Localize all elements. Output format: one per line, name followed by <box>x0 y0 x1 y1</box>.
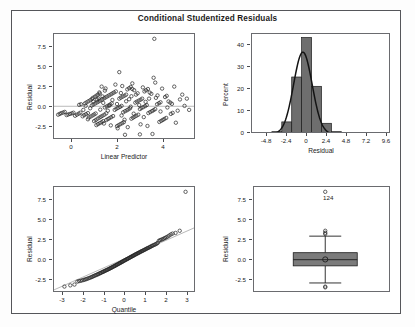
qq-x-tickmark-4 <box>145 292 146 295</box>
qq-x-tickmark-6 <box>187 292 188 295</box>
scatter-x-tick-2: 4 <box>153 143 173 150</box>
qq-y-tickmark-3 <box>49 259 52 260</box>
scatter-x-tick-1: 2 <box>107 143 127 150</box>
qq-y-tickmark-2 <box>49 239 52 240</box>
qq-plot-area <box>53 186 195 292</box>
scatter-x-tickmark-2 <box>163 139 164 142</box>
box-y-tickmark-4 <box>249 279 252 280</box>
page-title: Conditional Studentized Residuals <box>0 14 415 23</box>
scatter-y-tickmark-3 <box>49 106 52 107</box>
box-y-tick-2: 2.5 <box>226 236 246 243</box>
scatter-y-tickmark-0 <box>49 46 52 47</box>
histogram-x-tick-1: -2.4 <box>276 137 296 144</box>
qq-x-axis-title: Quantile <box>74 306 174 313</box>
box-y-tick-4: -2.5 <box>226 276 246 283</box>
diagnostic-panel-figure: Conditional Studentized Residuals Residu… <box>0 0 415 327</box>
histogram-y-tick-1: 30 <box>228 63 244 70</box>
histogram-plot-area <box>251 33 390 133</box>
histogram-y-tick-4: 0 <box>228 129 244 136</box>
scatter-canvas <box>54 34 195 139</box>
qq-y-tickmark-0 <box>49 199 52 200</box>
scatter-y-tick-4: -2.5 <box>26 123 46 130</box>
scatter-y-tick-0: 7.5 <box>26 43 46 50</box>
histogram-x-tick-4: 4.8 <box>336 137 356 144</box>
scatter-x-tickmark-0 <box>71 139 72 142</box>
qq-canvas <box>54 187 195 292</box>
scatter-x-tick-0: 0 <box>61 143 81 150</box>
qq-x-tickmark-2 <box>104 292 105 295</box>
scatter-plot-area <box>53 33 195 139</box>
qq-y-tickmark-1 <box>49 219 52 220</box>
box-y-tickmark-3 <box>249 259 252 260</box>
histogram-y-tickmark-1 <box>247 66 250 67</box>
qq-y-tick-0: 7.5 <box>26 196 46 203</box>
histogram-x-tick-2: 0 <box>296 137 316 144</box>
histogram-y-tickmark-3 <box>247 110 250 111</box>
box-plot-area: 124 <box>253 186 390 292</box>
box-outlier-label: 124 <box>323 194 333 201</box>
histogram-x-tickmark-1 <box>286 133 287 136</box>
box-y-tickmark-0 <box>249 199 252 200</box>
histogram-y-tick-2: 20 <box>228 85 244 92</box>
histogram-canvas <box>252 34 390 133</box>
scatter-y-tick-1: 5.0 <box>26 63 46 70</box>
histogram-x-tickmark-3 <box>326 133 327 136</box>
box-y-tick-3: 0.0 <box>226 256 246 263</box>
qq-y-tick-2: 2.5 <box>26 236 46 243</box>
scatter-y-tickmark-2 <box>49 86 52 87</box>
histogram-x-tick-6: 9.6 <box>376 137 396 144</box>
qq-x-tick-5: 2 <box>156 296 176 303</box>
qq-y-tick-1: 5.0 <box>26 216 46 223</box>
histogram-y-tick-0: 40 <box>228 41 244 48</box>
box-y-tick-0: 7.5 <box>226 196 246 203</box>
qq-x-tick-3: 0 <box>114 296 134 303</box>
histogram-x-tickmark-5 <box>366 133 367 136</box>
box-canvas <box>254 187 390 292</box>
qq-x-tickmark-0 <box>62 292 63 295</box>
histogram-x-tickmark-6 <box>386 133 387 136</box>
scatter-y-tick-2: 2.5 <box>26 83 46 90</box>
box-y-tickmark-2 <box>249 239 252 240</box>
scatter-x-axis-title: Linear Predictor <box>74 153 174 160</box>
qq-x-tickmark-1 <box>83 292 84 295</box>
histogram-y-tick-3: 10 <box>228 107 244 114</box>
box-y-tickmark-1 <box>249 219 252 220</box>
qq-y-tick-3: 0.0 <box>26 256 46 263</box>
scatter-y-tickmark-4 <box>49 126 52 127</box>
qq-x-tickmark-3 <box>124 292 125 295</box>
histogram-x-tickmark-0 <box>266 133 267 136</box>
histogram-y-tickmark-0 <box>247 44 250 45</box>
qq-y-tickmark-4 <box>49 279 52 280</box>
qq-y-tick-4: -2.5 <box>26 276 46 283</box>
histogram-x-tickmark-4 <box>346 133 347 136</box>
scatter-y-tickmark-1 <box>49 66 52 67</box>
qq-x-tick-2: -1 <box>94 296 114 303</box>
qq-x-tickmark-5 <box>166 292 167 295</box>
histogram-x-axis-title: Residual <box>271 147 371 154</box>
qq-x-tick-0: -3 <box>52 296 72 303</box>
qq-x-tick-4: 1 <box>135 296 155 303</box>
histogram-x-tick-3: 2.4 <box>316 137 336 144</box>
histogram-x-tickmark-2 <box>306 133 307 136</box>
histogram-x-tick-5: 7.2 <box>356 137 376 144</box>
qq-x-tick-1: -2 <box>73 296 93 303</box>
scatter-y-tick-3: 0.0 <box>26 103 46 110</box>
histogram-x-tick-0: -4.8 <box>256 137 276 144</box>
histogram-y-tickmark-4 <box>247 132 250 133</box>
scatter-x-tickmark-1 <box>117 139 118 142</box>
qq-x-tick-6: 3 <box>177 296 197 303</box>
histogram-y-tickmark-2 <box>247 88 250 89</box>
box-y-tick-1: 5.0 <box>226 216 246 223</box>
